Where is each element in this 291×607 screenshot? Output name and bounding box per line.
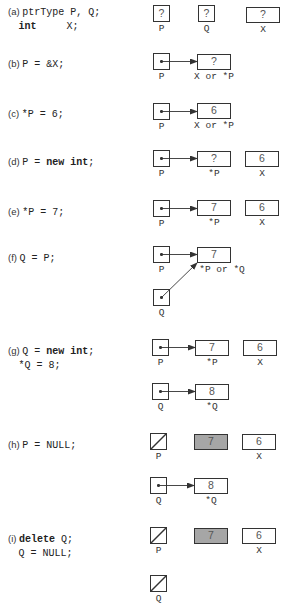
pointer-p-box: ? [153,5,170,22]
step-f-code: (f) Q = P; [8,251,56,265]
code-keyword-delete: delete [19,534,55,545]
pointer-q-box [153,289,170,306]
pointer-q-box [152,383,169,400]
pointer-arrows [0,0,291,607]
int-x-box: 6 [243,340,277,356]
pointer-dot [159,346,162,349]
target-box: ? [197,151,231,167]
target-q-box: 8 [194,478,228,494]
step-c-code: (c) *P = 6; [8,107,64,121]
target-box: 7 [197,247,231,263]
label-x: X [246,24,280,35]
label-q: Q [198,23,215,34]
label-target-q: *Q [194,495,228,506]
pointer-p-box [153,246,170,263]
orphaned-memory-box: 7 [194,434,228,450]
null-pointer-q-box [150,575,167,592]
target-box: ? [197,54,231,70]
label-p: P [150,545,167,556]
label-target: *P or *Q [192,264,252,275]
code-keyword-int: int [19,21,37,32]
label-p: P [153,23,170,34]
label-target: X or *P [187,120,241,131]
label-x: X [242,451,276,462]
code-keyword-new: new int [46,157,88,168]
pointer-p-box [152,339,169,356]
pointer-p-box [153,103,170,120]
label-target-p: *P [195,357,229,368]
target-p-box: 7 [195,340,229,356]
label-q: Q [150,593,167,604]
step-g-code: (g) Q = new int; *Q = 8; [8,344,94,372]
target-q-box: 8 [195,384,229,400]
label-p: P [153,218,170,229]
step-e-code: (e) *P = 7; [8,205,64,219]
code-line: ptrType P, Q; [22,7,100,18]
target-box: 6 [197,103,231,119]
label-p: P [153,121,170,132]
target-box: 7 [197,200,231,216]
label-x: X [245,168,279,179]
label-q: Q [153,307,170,318]
label-target: *P [197,168,231,179]
label-x: X [243,357,277,368]
step-i-code: (i) delete Q; Q = NULL; [8,532,73,560]
label-p: P [150,451,167,462]
pointer-p-box [153,200,170,217]
null-pointer-p-box [150,527,167,544]
label-x: X [245,217,279,228]
label-target: *P [197,217,231,228]
step-b-code: (b) P = &X; [8,57,64,71]
pointer-dot [159,390,162,393]
pointer-dot [160,253,163,256]
code-keyword-new: new int [46,346,88,357]
pointer-dot [160,60,163,63]
label-q: Q [152,401,169,412]
step-a-code: (a) ptrType P, Q; int X; [8,5,100,33]
pointer-q-box [150,477,167,494]
step-d-code: (d) P = new int; [8,155,94,169]
label-target-q: *Q [195,401,229,412]
pointer-dot [160,110,163,113]
label-q: Q [150,495,167,506]
int-x-box: ? [246,7,280,23]
orphaned-memory-box: 7 [194,528,228,544]
label-target: X or *P [187,71,241,82]
pointer-dot [160,296,163,299]
step-h-code: (h) P = NULL; [8,438,76,452]
int-x-box: 6 [242,434,276,450]
int-x-box: 6 [245,151,279,167]
null-pointer-p-box [150,433,167,450]
label-p: P [153,264,170,275]
label-p: P [153,168,170,179]
pointer-p-box [153,53,170,70]
int-x-box: 6 [242,528,276,544]
int-x-box: 6 [245,200,279,216]
pointer-p-box [153,150,170,167]
pointer-dot [160,157,163,160]
label-p: P [152,357,169,368]
pointer-dot [157,484,160,487]
pointer-dot [160,207,163,210]
pointer-q-box: ? [198,5,215,22]
label-x: X [242,545,276,556]
label-p: P [153,71,170,82]
